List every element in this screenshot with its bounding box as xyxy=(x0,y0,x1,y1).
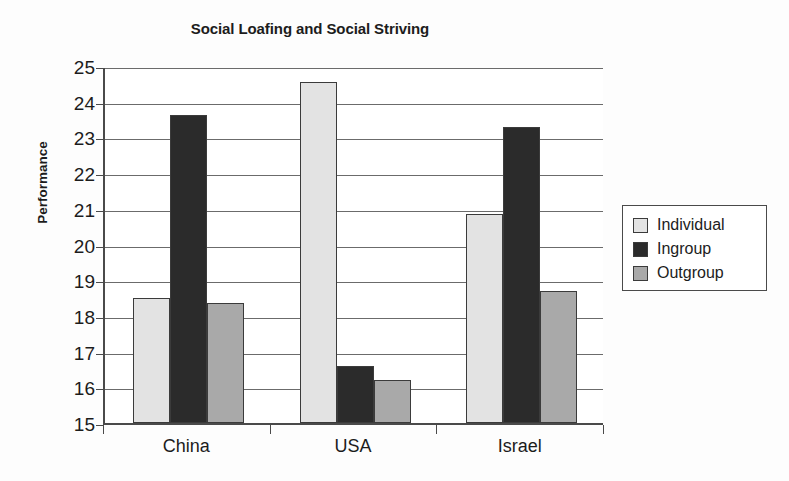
legend-swatch-ingroup-icon xyxy=(633,242,648,257)
chart-figure: Social Loafing and Social Striving Perfo… xyxy=(0,0,789,481)
bar-china-ingroup xyxy=(170,115,207,423)
y-tick-mark-18 xyxy=(96,318,103,319)
chart-title: Social Loafing and Social Striving xyxy=(0,20,620,37)
x-tick-mark-2 xyxy=(436,425,437,434)
y-tick-label-21: 21 xyxy=(35,201,95,220)
y-tick-mark-23 xyxy=(96,139,103,140)
y-tick-label-15: 15 xyxy=(35,415,95,434)
legend-item-ingroup[interactable]: Ingroup xyxy=(633,237,766,261)
x-tick-mark-0 xyxy=(103,425,104,434)
y-tick-label-19: 19 xyxy=(35,272,95,291)
y-tick-label-20: 20 xyxy=(35,237,95,256)
bar-usa-individual xyxy=(300,82,337,423)
bar-usa-ingroup xyxy=(337,366,374,423)
legend-swatch-individual-icon xyxy=(633,218,648,233)
x-tick-label-israel: Israel xyxy=(435,436,605,457)
y-tick-mark-25 xyxy=(96,68,103,69)
y-tick-mark-22 xyxy=(96,175,103,176)
plot-area xyxy=(103,68,603,425)
gridline-24 xyxy=(105,104,603,105)
y-tick-label-18: 18 xyxy=(35,308,95,327)
x-tick-mark-1 xyxy=(270,425,271,434)
legend-label-individual: Individual xyxy=(657,216,725,234)
y-tick-label-25: 25 xyxy=(35,58,95,77)
y-tick-label-24: 24 xyxy=(35,94,95,113)
y-tick-mark-15 xyxy=(96,425,103,426)
y-tick-label-23: 23 xyxy=(35,129,95,148)
y-tick-label-17: 17 xyxy=(35,344,95,363)
y-tick-mark-20 xyxy=(96,247,103,248)
legend-item-outgroup[interactable]: Outgroup xyxy=(633,261,766,285)
legend-swatch-outgroup-icon xyxy=(633,266,648,281)
bar-usa-outgroup xyxy=(374,380,411,423)
chart-legend: IndividualIngroupOutgroup xyxy=(622,205,767,291)
y-tick-label-16: 16 xyxy=(35,379,95,398)
bar-china-outgroup xyxy=(207,303,244,423)
y-tick-mark-21 xyxy=(96,211,103,212)
legend-label-ingroup: Ingroup xyxy=(657,240,711,258)
y-tick-mark-24 xyxy=(96,104,103,105)
gridline-25 xyxy=(105,68,603,69)
bar-israel-ingroup xyxy=(503,127,540,423)
y-tick-mark-16 xyxy=(96,389,103,390)
bar-israel-individual xyxy=(466,214,503,423)
y-tick-mark-17 xyxy=(96,354,103,355)
legend-label-outgroup: Outgroup xyxy=(657,264,724,282)
x-tick-label-china: China xyxy=(101,436,271,457)
x-tick-mark-3 xyxy=(603,425,604,434)
y-tick-mark-19 xyxy=(96,282,103,283)
bar-israel-outgroup xyxy=(540,291,577,423)
bar-china-individual xyxy=(133,298,170,423)
legend-item-individual[interactable]: Individual xyxy=(633,213,766,237)
y-tick-label-22: 22 xyxy=(35,165,95,184)
x-tick-label-usa: USA xyxy=(268,436,438,457)
